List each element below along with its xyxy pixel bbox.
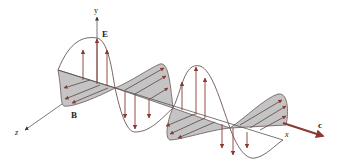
propagation-label: c: [318, 120, 322, 130]
propagation-arrow: [283, 123, 323, 136]
z-axis: [25, 104, 62, 130]
magnetic-field-lobes: [58, 64, 288, 140]
y-axis-label: y: [94, 6, 98, 15]
electric-field-label: E: [102, 29, 108, 39]
x-axis-label: x: [284, 130, 289, 139]
em-wave-diagram: y E B z x c: [0, 0, 339, 167]
em-wave-figure: y E B z x c: [0, 0, 339, 167]
z-axis-label: z: [14, 128, 19, 137]
magnetic-field-label: B: [71, 110, 77, 120]
